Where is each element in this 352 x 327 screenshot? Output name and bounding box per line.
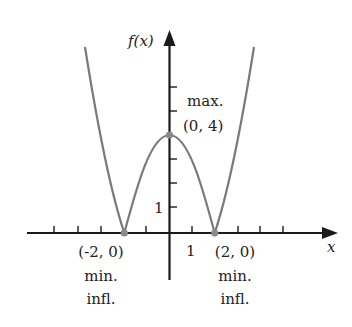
point-max — [166, 131, 173, 138]
right-note-min: min. — [218, 267, 251, 285]
max-title: max. — [187, 92, 223, 110]
point-min-right — [211, 229, 218, 236]
right-note-infl: infl. — [220, 290, 249, 308]
y-unit-label: 1 — [154, 199, 164, 217]
right-coord: (2, 0) — [215, 243, 255, 261]
y-axis-label: f(x) — [127, 32, 154, 50]
function-graph: f(x) x 1 1 max. (0, 4) (-2, 0) min. infl… — [0, 0, 352, 327]
left-note-infl: infl. — [86, 290, 115, 308]
y-ticks — [170, 87, 178, 207]
max-coord: (0, 4) — [183, 117, 223, 135]
left-coord: (-2, 0) — [78, 243, 123, 261]
left-note-min: min. — [84, 267, 117, 285]
x-unit-label: 1 — [186, 242, 196, 260]
y-axis-arrow-icon — [164, 30, 176, 46]
point-min-left — [121, 229, 128, 236]
x-axis-label: x — [327, 238, 336, 256]
